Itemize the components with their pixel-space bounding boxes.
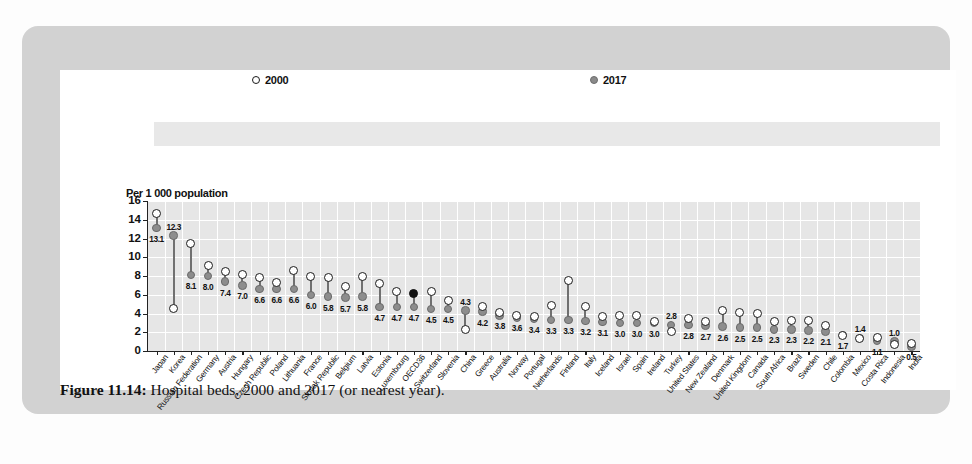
marker-2017[interactable]: [358, 292, 367, 301]
marker-2017[interactable]: [290, 285, 299, 294]
data-value-label: 8.0: [203, 282, 213, 292]
figure-panel: 2000 2017 Per 1 000 population 024681012…: [60, 70, 956, 390]
legend-item-2000: 2000: [252, 74, 288, 86]
marker-2000[interactable]: [461, 325, 470, 334]
x-axis-category-label: India: [907, 353, 924, 372]
marker-2017[interactable]: [169, 231, 178, 240]
marker-2000[interactable]: [838, 331, 847, 340]
gridline-vertical: [302, 201, 303, 351]
marker-2000[interactable]: [907, 339, 916, 348]
marker-2017[interactable]: [753, 323, 762, 332]
data-value-label: 6.0: [306, 301, 316, 311]
gridline-vertical: [714, 201, 715, 351]
marker-2017[interactable]: [787, 325, 796, 334]
data-value-label: 2.3: [786, 335, 796, 345]
marker-2000[interactable]: [735, 308, 744, 317]
marker-2000[interactable]: [221, 267, 230, 276]
marker-2017[interactable]: [375, 303, 384, 312]
marker-2000[interactable]: [306, 272, 315, 281]
gridline-vertical: [440, 201, 441, 351]
y-axis-tick: [143, 295, 148, 296]
marker-2017[interactable]: [341, 293, 350, 302]
marker-2000[interactable]: [186, 239, 195, 248]
marker-2000[interactable]: [770, 317, 779, 326]
marker-2017[interactable]: [770, 325, 779, 334]
marker-2017[interactable]: [736, 323, 745, 332]
marker-2017[interactable]: [187, 271, 196, 280]
marker-2000[interactable]: [427, 287, 436, 296]
marker-2000[interactable]: [409, 289, 418, 298]
gridline-vertical: [337, 201, 338, 351]
gridline-vertical: [646, 201, 647, 351]
marker-2000[interactable]: [667, 327, 676, 336]
marker-2017[interactable]: [633, 319, 642, 328]
marker-2000[interactable]: [204, 261, 213, 270]
marker-2000[interactable]: [804, 316, 813, 325]
gridline-horizontal: [148, 220, 920, 221]
y-axis-tick-label: 2: [135, 327, 141, 339]
marker-2017[interactable]: [393, 303, 402, 312]
marker-2017[interactable]: [616, 319, 625, 328]
marker-2000[interactable]: [238, 270, 247, 279]
data-value-label: 2.7: [700, 332, 710, 342]
marker-2000[interactable]: [890, 340, 899, 349]
gridline-vertical: [560, 201, 561, 351]
marker-2017[interactable]: [804, 326, 813, 335]
marker-2000[interactable]: [650, 317, 659, 326]
caption-text: Hospital beds, 2000 and 2017 (or nearest…: [147, 381, 445, 398]
marker-2000[interactable]: [547, 301, 556, 310]
marker-2000[interactable]: [632, 311, 641, 320]
marker-2000[interactable]: [581, 302, 590, 311]
marker-2000[interactable]: [255, 273, 264, 282]
marker-2017[interactable]: [718, 322, 727, 331]
marker-2000[interactable]: [324, 273, 333, 282]
data-value-label: 8.1: [186, 281, 196, 291]
marker-2000[interactable]: [615, 311, 624, 320]
marker-2017[interactable]: [307, 291, 316, 300]
marker-2000[interactable]: [855, 334, 864, 343]
marker-2000[interactable]: [564, 276, 573, 285]
marker-2000[interactable]: [152, 209, 161, 218]
marker-2000[interactable]: [341, 282, 350, 291]
marker-2000[interactable]: [873, 333, 882, 342]
gridline-vertical: [594, 201, 595, 351]
marker-2017[interactable]: [581, 317, 590, 326]
marker-2000[interactable]: [787, 316, 796, 325]
data-value-label: 3.0: [632, 329, 642, 339]
marker-2000[interactable]: [444, 296, 453, 305]
marker-2017[interactable]: [564, 316, 573, 325]
data-value-label: 7.0: [237, 291, 247, 301]
marker-2000[interactable]: [530, 312, 539, 321]
marker-2017[interactable]: [221, 277, 230, 286]
gridline-vertical: [405, 201, 406, 351]
marker-2017[interactable]: [204, 272, 213, 281]
marker-2017[interactable]: [324, 292, 333, 301]
marker-2000[interactable]: [375, 279, 384, 288]
y-axis-tick: [143, 276, 148, 277]
gridline-vertical: [577, 201, 578, 351]
marker-2017[interactable]: [410, 303, 419, 312]
data-value-label: 6.6: [254, 295, 264, 305]
gridline-horizontal: [148, 201, 920, 202]
data-value-label: 3.8: [495, 321, 505, 331]
marker-2000[interactable]: [684, 314, 693, 323]
marker-2017[interactable]: [427, 305, 436, 314]
data-value-label: 4.7: [409, 313, 419, 323]
marker-2000[interactable]: [753, 309, 762, 318]
x-axis-category-label: Japan: [149, 353, 169, 375]
y-axis-tick-label: 4: [135, 308, 141, 320]
y-axis-tick-label: 8: [135, 270, 141, 282]
gridline-vertical: [285, 201, 286, 351]
marker-2000[interactable]: [289, 266, 298, 275]
marker-2000[interactable]: [598, 312, 607, 321]
marker-2017[interactable]: [152, 224, 161, 233]
data-value-label: 1.7: [838, 341, 848, 351]
marker-2000[interactable]: [169, 304, 178, 313]
gridline-vertical: [217, 201, 218, 351]
marker-2000[interactable]: [358, 272, 367, 281]
marker-2017[interactable]: [238, 281, 247, 290]
marker-2017[interactable]: [461, 306, 470, 315]
marker-2017[interactable]: [444, 305, 453, 314]
marker-2017[interactable]: [547, 316, 556, 325]
marker-2017[interactable]: [255, 285, 264, 294]
